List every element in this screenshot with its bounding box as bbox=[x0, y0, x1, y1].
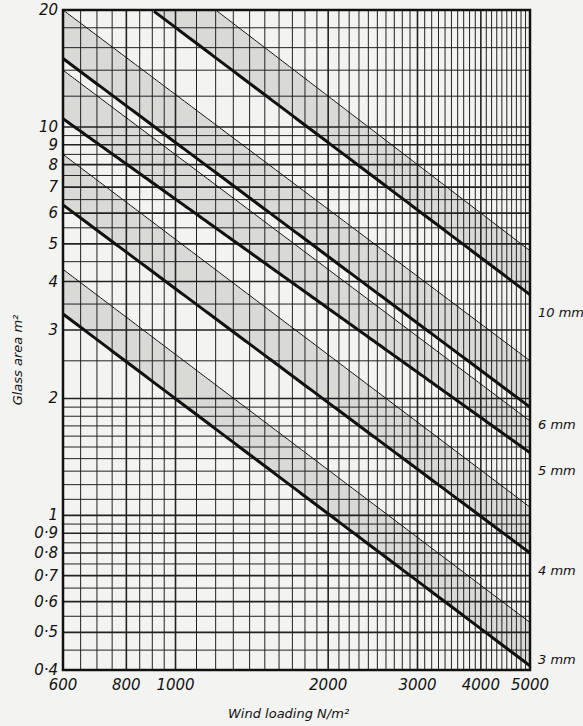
x-tick-label: 4000 bbox=[462, 676, 500, 694]
line-label-10mm: 10 mm bbox=[538, 305, 583, 320]
y-tick-label: 2 bbox=[48, 389, 58, 407]
y-tick-label: 0·6 bbox=[34, 593, 58, 611]
y-tick-label: 8 bbox=[48, 156, 58, 174]
x-tick-labels: 60080010002000300040005000 bbox=[49, 676, 549, 694]
y-tick-labels: 0·40·50·60·70·80·91234567891020 bbox=[34, 1, 58, 679]
y-tick-label: 0·9 bbox=[34, 524, 58, 542]
line-label-6mm: 6 mm bbox=[538, 417, 576, 432]
x-tick-label: 5000 bbox=[511, 676, 549, 694]
y-tick-label: 6 bbox=[48, 204, 58, 222]
y-tick-label: 4 bbox=[48, 273, 58, 291]
x-tick-label: 1000 bbox=[156, 676, 194, 694]
y-tick-label: 0·8 bbox=[34, 544, 58, 562]
series-line-10mm-band-upper bbox=[217, 11, 530, 251]
x-tick-label: 2000 bbox=[309, 676, 347, 694]
series-line-5mm bbox=[63, 119, 530, 453]
y-tick-label: 1 bbox=[48, 506, 58, 524]
line-label-4mm: 4 mm bbox=[538, 563, 576, 578]
y-tick-label: 7 bbox=[48, 178, 58, 196]
x-tick-label: 3000 bbox=[398, 676, 436, 694]
line-label-5mm: 5 mm bbox=[538, 463, 576, 478]
y-tick-label: 10 bbox=[39, 118, 58, 136]
line-label-3mm: 3 mm bbox=[538, 652, 576, 667]
y-tick-label: 0·7 bbox=[34, 567, 58, 585]
series-line-6mm-band-upper bbox=[63, 10, 530, 361]
y-tick-label: 3 bbox=[48, 321, 58, 339]
y-tick-label: 0·5 bbox=[34, 623, 58, 641]
y-tick-label: 20 bbox=[39, 1, 58, 19]
x-axis-label: Wind loading N/m² bbox=[228, 706, 349, 721]
y-tick-label: 9 bbox=[48, 136, 58, 154]
x-tick-label: 600 bbox=[49, 676, 78, 694]
x-tick-label: 800 bbox=[112, 676, 141, 694]
shaded-bands bbox=[63, 10, 530, 666]
glass-area-wind-loading-chart: 0·40·50·60·70·80·91234567891020 60080010… bbox=[0, 0, 583, 726]
y-tick-label: 5 bbox=[48, 235, 58, 253]
line-labels: 3 mm4 mm5 mm6 mm10 mm bbox=[538, 305, 583, 667]
y-axis-label: Glass area m² bbox=[10, 315, 25, 406]
